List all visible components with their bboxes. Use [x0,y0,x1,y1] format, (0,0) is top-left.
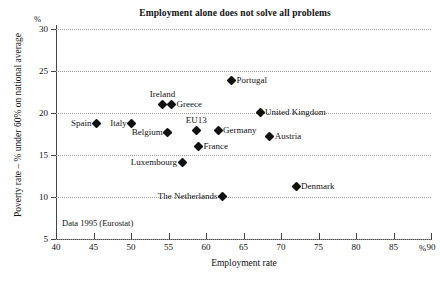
x-tick-label: 85 [379,243,409,252]
x-tick-label: 55 [154,243,184,252]
y-tick-label: 20 [26,109,48,118]
x-tick-label: 90 [416,243,440,252]
y-axis-title: Poverty rate – % under 60% on national a… [13,25,23,225]
x-tick-label: 80 [341,243,371,252]
data-point-label: Greece [177,100,202,109]
x-tick-mark [431,233,432,239]
diamond-marker-icon [191,126,201,136]
x-tick-label: 60 [191,243,221,252]
data-point-label: Denmark [301,182,335,191]
y-tick-label: 30 [26,25,48,34]
x-tick-label: 45 [79,243,109,252]
x-tick-label: 40 [41,243,71,252]
data-point-label: EU13 [186,116,207,125]
data-point-label: Belgium [132,128,163,137]
diamond-marker-icon [255,107,265,117]
diamond-marker-icon [213,126,223,136]
diamond-marker-icon [177,158,187,168]
y-tick-label: 10 [26,193,48,202]
y-axis-unit-label: % [34,14,41,24]
data-point-label: Portugal [237,76,268,85]
diamond-marker-icon [218,191,228,201]
chart-title: Employment alone does not solve all prob… [95,8,375,18]
x-tick-label: 50 [116,243,146,252]
data-point-label: Austria [275,132,302,141]
diamond-marker-icon [227,75,237,85]
data-point-label: Spain [71,119,92,128]
x-tick-label: 75 [304,243,334,252]
y-tick-mark [51,239,56,240]
data-point-label: Luxembourg [131,158,177,167]
y-tick-label: 25 [26,67,48,76]
gridline [56,239,431,240]
diamond-marker-icon [265,132,275,142]
data-point-label: Germany [223,126,257,135]
x-tick-label: 65 [229,243,259,252]
diamond-marker-icon [194,142,204,152]
plot-area: SpainItalyIrelandGreeceBelgiumLuxembourg… [56,29,431,239]
diamond-marker-icon [163,127,173,137]
diamond-marker-icon [167,100,177,110]
x-tick-label: 70 [266,243,296,252]
x-axis-title: Employment rate [56,258,432,268]
y-tick-label: 15 [26,151,48,160]
data-point-label: Italy [110,119,127,128]
data-point-label: France [204,142,229,151]
data-point-label: The Netherlands [158,192,218,201]
diamond-marker-icon [291,181,301,191]
diamond-marker-icon [92,119,102,129]
data-point-label: United Kingdom [265,108,326,117]
data-point-label: Ireland [150,90,175,99]
